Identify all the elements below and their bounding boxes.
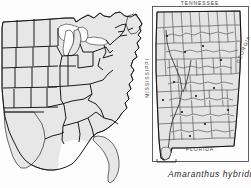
gulf-of-mexico [58, 140, 107, 188]
distribution-map-figure: TENNESSEE MISSISSIPPI GEORGIA FLORIDA Am… [0, 0, 251, 188]
label-mississippi: MISSISSIPPI [144, 58, 150, 98]
figure-caption: Amaranthus hybridus [168, 169, 251, 179]
map-graphic: TENNESSEE MISSISSIPPI GEORGIA FLORIDA [0, 0, 251, 188]
alabama-inset-group: TENNESSEE MISSISSIPPI GEORGIA FLORIDA [144, 0, 251, 162]
label-tennessee: TENNESSEE [181, 0, 219, 6]
label-florida: FLORIDA [186, 146, 214, 152]
us-map-group [2, 12, 142, 188]
